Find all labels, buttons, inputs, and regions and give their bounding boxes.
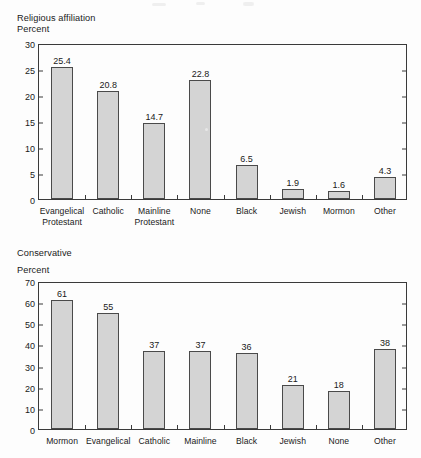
y-axis-tick-mark xyxy=(39,388,43,389)
x-axis-tick-mark xyxy=(85,195,86,199)
x-axis-tick-mark xyxy=(316,425,317,429)
y-axis-tick-label: 60 xyxy=(25,300,35,309)
category-label-line1: Other xyxy=(374,206,396,216)
y-axis-tick-mark xyxy=(402,388,406,389)
bar xyxy=(328,191,350,199)
x-axis-category-label: Other xyxy=(374,206,396,217)
x-axis-category-label: EvangelicalProtestant xyxy=(40,206,85,227)
y-axis-tick-mark xyxy=(402,325,406,326)
bar xyxy=(189,351,211,429)
bar-value-label: 1.9 xyxy=(286,179,299,188)
x-axis-category-label: Other xyxy=(374,436,396,447)
y-axis-tick-mark xyxy=(402,367,406,368)
category-label-line1: Black xyxy=(236,206,257,216)
bar-value-label: 55 xyxy=(103,303,113,312)
y-axis-tick-mark xyxy=(402,149,406,150)
category-label-line1: Mainline xyxy=(138,206,170,216)
y-axis-tick-mark xyxy=(39,97,43,98)
x-axis-tick-mark xyxy=(177,195,178,199)
x-axis-category-label: Jewish xyxy=(279,206,306,217)
y-axis-tick-mark xyxy=(402,346,406,347)
bar-value-label: 20.8 xyxy=(99,81,117,90)
category-label-line1: Evangelical xyxy=(40,206,85,216)
category-label-line1: Mormon xyxy=(46,436,78,446)
x-axis-tick-mark xyxy=(362,195,363,199)
scan-artifact xyxy=(152,3,166,6)
chart-conservative: Conservative Percent 01020304050607061Mo… xyxy=(0,237,421,458)
category-label-line1: Mainline xyxy=(184,436,216,446)
bar xyxy=(143,123,165,199)
y-axis-tick-mark xyxy=(39,304,43,305)
y-axis-tick-label: 20 xyxy=(25,384,35,393)
plot-area-conservative: 01020304050607061Mormon55Evangelical37Ca… xyxy=(38,282,407,430)
x-axis-category-label: Catholic xyxy=(139,436,170,447)
y-axis-tick-label: 50 xyxy=(25,321,35,330)
y-axis-tick-mark xyxy=(39,325,43,326)
x-axis-category-label: Black xyxy=(236,436,257,447)
x-axis-tick-mark xyxy=(362,425,363,429)
x-axis-category-label: Mainline xyxy=(184,436,216,447)
category-label-line1: Mormon xyxy=(323,206,355,216)
x-axis-category-label: None xyxy=(328,436,349,447)
y-axis-tick-mark xyxy=(39,71,43,72)
bar-value-label: 38 xyxy=(380,339,390,348)
x-axis-category-label: None xyxy=(190,206,211,217)
y-axis-tick-mark xyxy=(402,409,406,410)
category-label-line1: Catholic xyxy=(139,436,170,446)
bar xyxy=(189,80,211,199)
x-axis-tick-mark xyxy=(270,425,271,429)
y-axis-tick-label: 15 xyxy=(25,119,35,128)
y-axis-tick-label: 0 xyxy=(30,197,35,206)
x-axis-tick-mark xyxy=(177,425,178,429)
bar-value-label: 37 xyxy=(149,341,159,350)
plot-area-religious-affiliation: 05101520253025.4EvangelicalProtestant20.… xyxy=(38,44,407,200)
y-axis-tick-mark xyxy=(39,149,43,150)
scan-artifact xyxy=(196,2,205,5)
x-axis-category-label: MainlineProtestant xyxy=(134,206,174,227)
chart-title-conservative: Conservative xyxy=(17,248,72,259)
x-axis-category-label: Catholic xyxy=(92,206,123,217)
x-axis-tick-mark xyxy=(85,425,86,429)
x-axis-category-label: Mormon xyxy=(323,206,355,217)
x-axis-category-label: Black xyxy=(236,206,257,217)
y-axis-tick-mark xyxy=(402,304,406,305)
y-axis-tick-mark xyxy=(402,71,406,72)
bar-value-label: 6.5 xyxy=(240,155,253,164)
y-axis-tick-label: 30 xyxy=(25,363,35,372)
bar-value-label: 1.6 xyxy=(333,181,346,190)
y-axis-tick-mark xyxy=(402,97,406,98)
category-label-line1: None xyxy=(190,206,211,216)
bar xyxy=(51,300,73,429)
bar xyxy=(236,165,258,199)
y-axis-tick-mark xyxy=(39,123,43,124)
y-axis-tick-mark xyxy=(39,409,43,410)
x-axis-category-label: Mormon xyxy=(46,436,78,447)
x-axis-tick-mark xyxy=(131,425,132,429)
category-label-line1: Black xyxy=(236,436,257,446)
bar xyxy=(374,349,396,429)
y-axis-tick-label: 10 xyxy=(25,405,35,414)
x-axis-tick-mark xyxy=(316,195,317,199)
category-label-line2: Protestant xyxy=(40,217,85,228)
bar xyxy=(236,353,258,429)
category-label-line2: Protestant xyxy=(134,217,174,228)
y-axis-label-religious-affiliation: Percent xyxy=(17,24,49,35)
scan-artifact xyxy=(243,2,254,6)
y-axis-tick-mark xyxy=(402,123,406,124)
bar-value-label: 21 xyxy=(288,375,298,384)
bar-value-label: 14.7 xyxy=(146,113,164,122)
y-axis-tick-mark xyxy=(402,175,406,176)
y-axis-tick-label: 20 xyxy=(25,93,35,102)
bar xyxy=(282,189,304,199)
y-axis-tick-label: 30 xyxy=(25,41,35,50)
bar xyxy=(97,91,119,199)
page: Religious affiliation Percent 0510152025… xyxy=(0,0,421,458)
x-axis-tick-mark xyxy=(270,195,271,199)
chart-title-religious-affiliation: Religious affiliation xyxy=(17,13,96,24)
x-axis-category-label: Jewish xyxy=(279,436,306,447)
y-axis-tick-label: 70 xyxy=(25,279,35,288)
y-axis-tick-label: 0 xyxy=(30,427,35,436)
y-axis-tick-label: 5 xyxy=(30,171,35,180)
y-axis-tick-mark xyxy=(39,175,43,176)
category-label-line1: None xyxy=(328,436,349,446)
